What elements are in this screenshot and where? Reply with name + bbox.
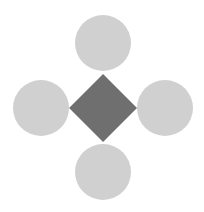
circle-left (13, 80, 69, 136)
circle-top (75, 15, 131, 71)
circle-bottom (75, 144, 131, 200)
center-diamond (69, 74, 137, 142)
circle-right (137, 80, 193, 136)
